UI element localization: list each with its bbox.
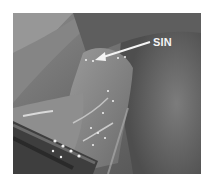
- sin-label: SIN: [153, 36, 172, 48]
- surgical-photo: SIN: [13, 13, 201, 174]
- photo-content: [13, 13, 201, 174]
